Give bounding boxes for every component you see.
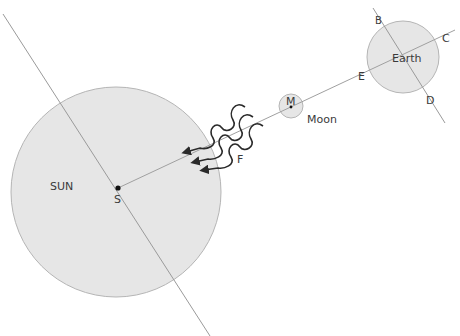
earth-label: Earth xyxy=(392,52,422,65)
sun-center-point xyxy=(115,185,120,190)
point-d-label: D xyxy=(426,94,434,107)
point-c-label: C xyxy=(442,32,450,45)
point-e-label: E xyxy=(358,70,365,83)
moon-point-label: M xyxy=(286,95,296,108)
sun-label: SUN xyxy=(50,180,73,193)
sun-moon-earth-diagram: SUN S M Moon Earth B C D E F xyxy=(0,0,460,336)
sun-point-label: S xyxy=(114,193,121,206)
point-b-label: B xyxy=(375,15,382,26)
sun-body xyxy=(11,87,221,297)
moon-label: Moon xyxy=(307,113,337,126)
point-f-label: F xyxy=(237,153,243,166)
